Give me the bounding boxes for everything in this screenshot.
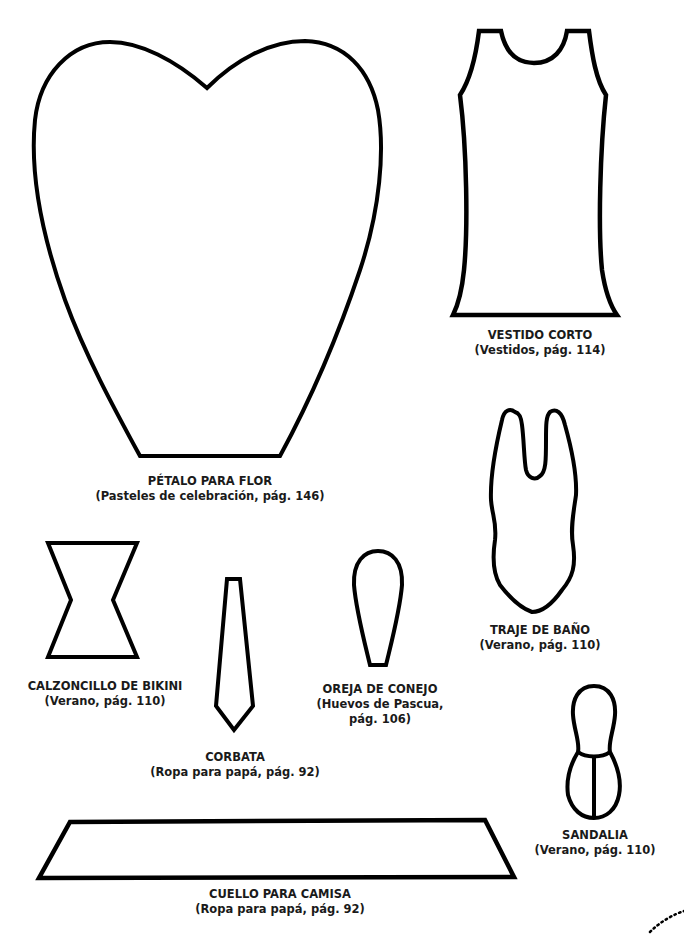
caption-petalo: PÉTALO PARA FLOR (Pasteles de celebració… — [80, 474, 340, 504]
caption-calzoncillo: CALZONCILLO DE BIKINI (Verano, pág. 110) — [20, 679, 190, 709]
caption-subtitle: (Verano, pág. 110) — [530, 843, 660, 858]
caption-subtitle: (Huevos de Pascua, — [305, 697, 455, 712]
caption-title: TRAJE DE BAÑO — [470, 623, 610, 638]
bunny-ear-shape — [354, 551, 402, 665]
swimsuit-shape — [491, 410, 576, 612]
caption-title: CALZONCILLO DE BIKINI — [20, 679, 190, 694]
caption-subtitle-line2: pág. 106) — [305, 712, 455, 727]
caption-title: PÉTALO PARA FLOR — [80, 474, 340, 489]
sandal-shape — [567, 686, 619, 818]
caption-title: VESTIDO CORTO — [460, 328, 620, 343]
caption-vestido: VESTIDO CORTO (Vestidos, pág. 114) — [460, 328, 620, 358]
dotted-curve-decoration — [650, 911, 684, 932]
caption-subtitle: (Pasteles de celebración, pág. 146) — [80, 489, 340, 504]
caption-subtitle: (Ropa para papá, pág. 92) — [180, 902, 380, 917]
caption-title: CORBATA — [140, 750, 330, 765]
bikini-bottom-shape — [48, 543, 137, 657]
caption-sandalia: SANDALIA (Verano, pág. 110) — [530, 828, 660, 858]
collar-shape — [39, 820, 514, 878]
caption-subtitle: (Vestidos, pág. 114) — [460, 343, 620, 358]
caption-title: CUELLO PARA CAMISA — [180, 887, 380, 902]
caption-title: OREJA DE CONEJO — [305, 682, 455, 697]
caption-corbata: CORBATA (Ropa para papá, pág. 92) — [140, 750, 330, 780]
caption-subtitle: (Verano, pág. 110) — [20, 694, 190, 709]
dress-shape — [453, 31, 617, 315]
caption-subtitle: (Verano, pág. 110) — [470, 638, 610, 653]
tie-shape — [216, 579, 253, 730]
petal-shape — [34, 41, 381, 456]
template-shapes — [0, 0, 684, 935]
caption-subtitle: (Ropa para papá, pág. 92) — [140, 765, 330, 780]
caption-traje: TRAJE DE BAÑO (Verano, pág. 110) — [470, 623, 610, 653]
caption-title: SANDALIA — [530, 828, 660, 843]
caption-cuello: CUELLO PARA CAMISA (Ropa para papá, pág.… — [180, 887, 380, 917]
caption-oreja: OREJA DE CONEJO (Huevos de Pascua, pág. … — [305, 682, 455, 727]
